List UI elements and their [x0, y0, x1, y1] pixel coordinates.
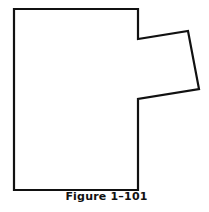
figure-diagram	[0, 0, 209, 212]
figure-caption: Figure 1–101	[0, 190, 209, 203]
floor-plan-outline	[14, 9, 199, 190]
